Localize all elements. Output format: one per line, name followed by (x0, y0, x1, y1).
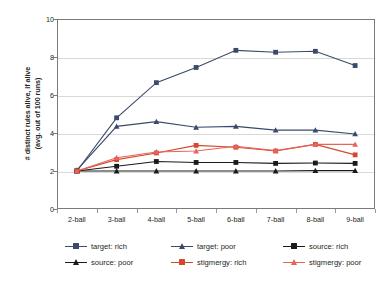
legend-swatch-icon (171, 257, 193, 267)
legend-swatch-icon (171, 241, 193, 251)
legend-swatch-icon (283, 241, 305, 251)
data-point (114, 164, 119, 169)
data-point (233, 160, 238, 165)
legend-marker-square-icon (291, 243, 297, 249)
data-point (313, 161, 318, 166)
legend-marker-triangle-icon (179, 243, 185, 249)
legend-item-stigmergy-poor[interactable]: stigmergy: poor (283, 254, 375, 270)
legend-label: stigmergy: poor (309, 258, 361, 267)
legend-swatch-icon (65, 257, 87, 267)
legend: target: richtarget: poorsource: richsour… (57, 238, 375, 270)
legend-marker-triangle-icon (291, 259, 297, 265)
data-point (114, 115, 119, 120)
legend-marker-square-icon (179, 259, 185, 265)
legend-swatch-icon (65, 241, 87, 251)
legend-swatch-icon (283, 257, 305, 267)
legend-label: stigmergy: rich (197, 258, 246, 267)
data-point (353, 161, 358, 166)
data-point (233, 48, 238, 53)
series-source-poor (74, 168, 358, 174)
legend-label: source: poor (91, 258, 133, 267)
data-point (154, 80, 159, 85)
legend-label: source: rich (309, 242, 348, 251)
legend-item-target-poor[interactable]: target: poor (171, 238, 283, 254)
chart-container: # distinct rules alive, if alive (avg. o… (0, 0, 387, 281)
data-point (273, 50, 278, 55)
series-line (77, 50, 355, 171)
data-point (194, 160, 199, 165)
data-point (194, 65, 199, 70)
data-point (154, 159, 159, 164)
data-point (273, 161, 278, 166)
data-point (313, 49, 318, 54)
legend-item-source-rich[interactable]: source: rich (283, 238, 375, 254)
data-point (194, 143, 199, 148)
legend-marker-square-icon (73, 243, 79, 249)
series-target-rich (74, 48, 357, 173)
legend-item-source-poor[interactable]: source: poor (57, 254, 171, 270)
legend-label: target: rich (91, 242, 127, 251)
data-point (353, 63, 358, 68)
legend-item-target-rich[interactable]: target: rich (57, 238, 171, 254)
legend-item-stigmergy-rich[interactable]: stigmergy: rich (171, 254, 283, 270)
legend-label: target: poor (197, 242, 236, 251)
data-point (353, 152, 358, 157)
legend-marker-triangle-icon (73, 259, 79, 265)
